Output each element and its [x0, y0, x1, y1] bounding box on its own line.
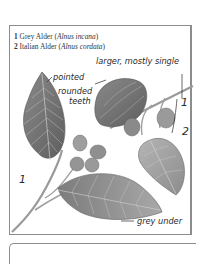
- next-panel-frame: [9, 243, 196, 264]
- species-marker-1-lower: 1: [19, 173, 26, 186]
- label-teeth: teeth: [69, 97, 91, 106]
- species-marker-1-upper: 1: [181, 96, 188, 109]
- species-marker-2: 2: [182, 125, 189, 138]
- label-grey-under: grey under: [137, 217, 182, 226]
- label-larger-single: larger, mostly single: [96, 57, 179, 66]
- label-pointed: pointed: [53, 73, 84, 82]
- label-rounded: rounded: [58, 87, 92, 96]
